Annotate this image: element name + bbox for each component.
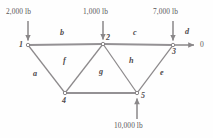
member-b-line	[28, 44, 103, 45]
load-label-joint-5: 10,000 lb	[114, 122, 143, 129]
joint-label-5: 5	[141, 92, 145, 100]
member-label-a: a	[33, 70, 37, 78]
joint-1-marker	[26, 43, 29, 46]
joint-label-1: 1	[19, 41, 23, 49]
member-label-h: h	[129, 57, 134, 65]
joint-4-marker	[63, 91, 66, 94]
member-h-line	[103, 44, 137, 93]
reaction-label-joint-3: 0	[200, 41, 204, 49]
member-c-line	[103, 44, 173, 45]
joint-label-4: 4	[62, 97, 66, 105]
joint-label-2: 2	[106, 34, 110, 42]
load-label-joint-3: 7,000 lb	[153, 8, 178, 15]
member-label-e: e	[160, 69, 164, 77]
member-label-g: g	[99, 68, 103, 76]
member-label-c: c	[133, 29, 137, 37]
member-label-f: f	[63, 57, 66, 65]
truss-svg	[0, 0, 213, 138]
load-label-joint-2: 1,000 lb	[83, 8, 108, 15]
member-f-line	[65, 44, 103, 93]
member-label-b: b	[60, 29, 64, 37]
truss-diagram-figure: 2,000 lb 1,000 lb 7,000 lb 10,000 lb 0 a…	[0, 0, 213, 138]
joint-2-marker	[101, 42, 104, 45]
joint-5-marker	[135, 91, 138, 94]
joint-label-3: 3	[172, 48, 176, 56]
member-label-d: d	[185, 28, 189, 36]
member-e-line	[137, 45, 173, 93]
load-label-joint-1: 2,000 lb	[6, 8, 31, 15]
top-chord-members	[28, 44, 173, 45]
